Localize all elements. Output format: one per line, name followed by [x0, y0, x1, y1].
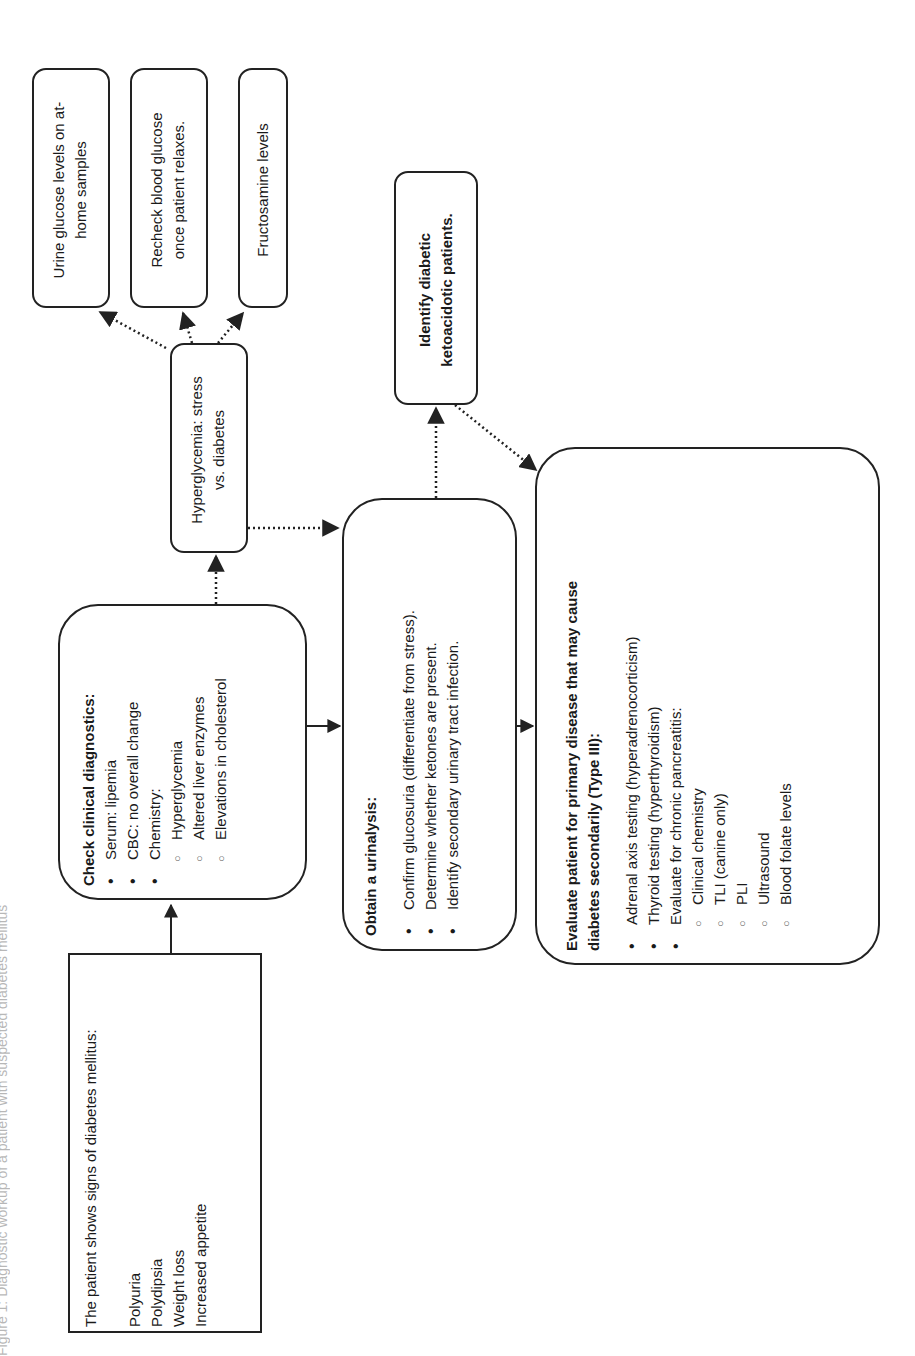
- clinical-title: Check clinical diagnostics:: [78, 616, 100, 886]
- type3-subitem: PLI: [731, 471, 753, 951]
- clinical-item: CBC: no overall change: [122, 616, 144, 886]
- clinical-subitem: Hyperglycemia: [166, 616, 188, 886]
- signs-item: Polyuria: [124, 967, 146, 1327]
- clinical-item: Serum: lipemia: [100, 616, 122, 886]
- edge-hyperglycemia-to-urine-glucose: [100, 312, 166, 348]
- urine-glucose-line2: home samples: [70, 80, 92, 300]
- recheck-line2: once patient relaxes.: [168, 80, 190, 300]
- ketoacidotic-line1: Identify diabetic: [414, 185, 436, 395]
- ketoacidotic-line2: ketoacidotic patients.: [436, 185, 458, 395]
- type3-subitem: Clinical chemistry: [687, 471, 709, 951]
- type3-subitem: TLI (canine only): [709, 471, 731, 951]
- clinical-item: Chemistry:: [144, 616, 166, 886]
- urine-glucose-line1: Urine glucose levels on at-: [48, 80, 70, 300]
- urinalysis-title: Obtain a urinalysis:: [360, 516, 382, 936]
- edge-ketoacidotic-to-type3: [455, 405, 536, 470]
- urinalysis-item: Determine whether ketones are present.: [420, 516, 442, 936]
- type3-item: Adrenal axis testing (hyperadrenocortici…: [621, 471, 643, 951]
- type3-item: Evaluate for chronic pancreatitis:: [665, 471, 687, 951]
- signs-item: Polydipsia: [146, 967, 168, 1327]
- fructosamine-line1: Fructosamine levels: [252, 80, 274, 300]
- type3-title-line2: diabetes secondarily (Type III):: [583, 471, 605, 951]
- node-signs: The patient shows signs of diabetes mell…: [68, 953, 262, 1333]
- node-hyperglycemia: Hyperglycemia: stress vs. diabetes: [170, 343, 248, 553]
- type3-item: Thyroid testing (hyperthyroidism): [643, 471, 665, 951]
- signs-item: Increased appetite: [190, 967, 212, 1327]
- type3-title-line1: Evaluate patient for primary disease tha…: [561, 471, 583, 951]
- hyperglycemia-line2: vs. diabetes: [208, 355, 230, 545]
- urinalysis-item: Confirm glucosuria (differentiate from s…: [398, 516, 420, 936]
- signs-item: Weight loss: [168, 967, 190, 1327]
- node-fructosamine: Fructosamine levels: [238, 68, 288, 308]
- node-clinical-diagnostics: Check clinical diagnostics: Serum: lipem…: [58, 604, 307, 900]
- clinical-subitem: Elevations in cholesterol: [210, 616, 232, 886]
- node-recheck-blood-glucose: Recheck blood glucose once patient relax…: [130, 68, 208, 308]
- node-type3-evaluation: Evaluate patient for primary disease tha…: [535, 447, 880, 965]
- urinalysis-item: Identify secondary urinary tract infecti…: [442, 516, 464, 936]
- type3-subitem: Blood folate levels: [775, 471, 797, 951]
- node-urinalysis: Obtain a urinalysis: Confirm glucosuria …: [342, 498, 517, 951]
- hyperglycemia-line1: Hyperglycemia: stress: [186, 355, 208, 545]
- type3-subitem: Ultrasound: [753, 471, 775, 951]
- edge-hyperglycemia-to-recheck: [183, 313, 192, 343]
- clinical-subitem: Altered liver enzymes: [188, 616, 210, 886]
- node-ketoacidotic: Identify diabetic ketoacidotic patients.: [394, 171, 478, 405]
- recheck-line1: Recheck blood glucose: [146, 80, 168, 300]
- signs-title: The patient shows signs of diabetes mell…: [80, 967, 102, 1327]
- edge-hyperglycemia-to-fructosamine: [218, 313, 243, 343]
- node-urine-glucose: Urine glucose levels on at- home samples: [32, 68, 110, 308]
